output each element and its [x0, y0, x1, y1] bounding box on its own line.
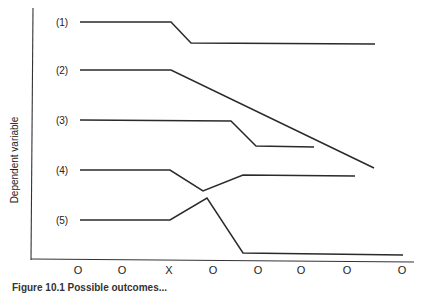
- x-axis: [31, 259, 414, 262]
- series-label-2: (2): [56, 65, 68, 76]
- series-line-5: [80, 198, 403, 255]
- series-line-3: [80, 120, 314, 147]
- x-tick-label: O: [74, 264, 83, 276]
- series-line-1: [80, 22, 375, 44]
- series-line-2: [80, 70, 374, 168]
- axes: [31, 8, 414, 262]
- x-tick-label: O: [209, 264, 218, 276]
- x-tick-label: O: [118, 264, 127, 276]
- x-tick-label: O: [297, 264, 306, 276]
- x-tick-label: X: [165, 264, 173, 276]
- figure-caption: Figure 10.1 Possible outcomes...: [12, 282, 167, 293]
- y-axis: [31, 8, 33, 260]
- x-tick-label: O: [254, 264, 263, 276]
- x-tick-label: O: [398, 264, 407, 276]
- series-label-3: (3): [56, 115, 68, 126]
- series-layer: (1)(2)(3)(4)(5): [56, 17, 403, 256]
- series-line-4: [80, 170, 355, 191]
- series-label-4: (4): [56, 165, 68, 176]
- y-axis-label: Dependent variable: [9, 116, 20, 203]
- series-label-1: (1): [56, 17, 68, 28]
- x-tick-label: O: [343, 264, 352, 276]
- x-tick-labels: OOXOOOOO: [74, 264, 407, 276]
- series-label-5: (5): [56, 215, 68, 226]
